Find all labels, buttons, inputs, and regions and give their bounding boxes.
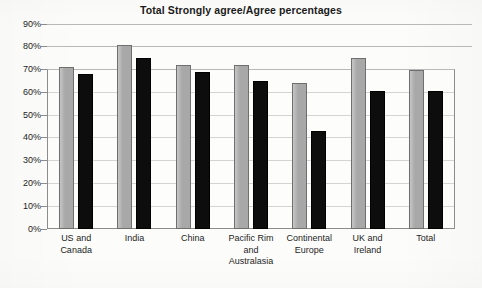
x-axis-category-label: US andCanada [47, 233, 105, 256]
bar-series1 [117, 45, 132, 230]
bar-series1 [234, 65, 249, 229]
bar-series1 [292, 83, 307, 229]
x-axis-label-line: Canada [47, 245, 105, 257]
y-axis-tick-label: 30% [23, 156, 41, 165]
bar-series1 [351, 58, 366, 229]
bar-series2 [195, 72, 210, 229]
y-axis-tick-label: 20% [23, 179, 41, 188]
bar-series2 [311, 131, 326, 229]
bar-series2 [136, 58, 151, 229]
x-axis-category-label: Pacific RimandAustralasia [222, 233, 280, 268]
x-axis-label-line: and [222, 245, 280, 257]
x-axis-label-line: China [164, 233, 222, 245]
x-axis-label-line: Total [397, 233, 455, 245]
bar-series1 [176, 65, 191, 229]
y-axis-tick-label: 10% [23, 202, 41, 211]
bars-layer [47, 24, 455, 229]
x-axis-label-line: Australasia [222, 256, 280, 268]
y-axis-tick-label: 80% [23, 42, 41, 51]
x-axis-category-label: China [164, 233, 222, 245]
x-axis-label-line: Continental [280, 233, 338, 245]
x-axis-label-line: Europe [280, 245, 338, 257]
x-axis-category-label: UK andIreland [338, 233, 396, 256]
x-axis-label-line: UK and [338, 233, 396, 245]
x-axis-label-line: Ireland [338, 245, 396, 257]
y-axis-tick-label: 90% [23, 20, 41, 29]
y-axis-tick-label: 0% [28, 225, 41, 234]
y-axis-tick-label: 70% [23, 65, 41, 74]
bar-series1 [59, 67, 74, 229]
y-axis-tick-label: 50% [23, 111, 41, 120]
bar-series2 [78, 74, 93, 229]
x-axis-label-line: US and [47, 233, 105, 245]
chart-container: Total Strongly agree/Agree percentages 9… [0, 0, 482, 288]
x-axis-label-line: India [105, 233, 163, 245]
bar-series1 [409, 70, 424, 229]
x-axis-category-label: India [105, 233, 163, 245]
bar-series2 [370, 91, 385, 229]
x-axis-category-label: Total [397, 233, 455, 245]
x-axis-label-line: Pacific Rim [222, 233, 280, 245]
y-axis-tick-label: 40% [23, 133, 41, 142]
bar-series2 [428, 91, 443, 229]
x-axis-category-label: ContinentalEurope [280, 233, 338, 256]
bar-series2 [253, 81, 268, 229]
y-axis-tick-label: 60% [23, 88, 41, 97]
chart-title: Total Strongly agree/Agree percentages [0, 4, 482, 16]
